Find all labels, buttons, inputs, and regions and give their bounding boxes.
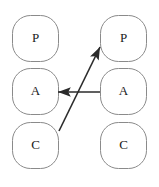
node-group-right-a[interactable]: A [101, 69, 147, 115]
node-group-left-a[interactable]: A [13, 69, 59, 115]
node-left-a-label: A [31, 83, 41, 98]
node-right-a-label: A [119, 83, 129, 98]
node-group-left-c[interactable]: C [13, 123, 59, 169]
node-group-right-c[interactable]: C [101, 123, 147, 169]
node-right-c-label: C [119, 137, 128, 152]
diagram-canvas: P P A A C C [0, 0, 159, 187]
diagram-svg: P P A A C C [0, 0, 159, 187]
arrow-left-c-to-right-p [59, 47, 100, 131]
node-left-c-label: C [31, 137, 40, 152]
node-right-p-label: P [120, 30, 127, 45]
node-group-right-p[interactable]: P [101, 16, 147, 62]
node-left-p-label: P [32, 30, 39, 45]
node-group-left-p[interactable]: P [13, 16, 59, 62]
